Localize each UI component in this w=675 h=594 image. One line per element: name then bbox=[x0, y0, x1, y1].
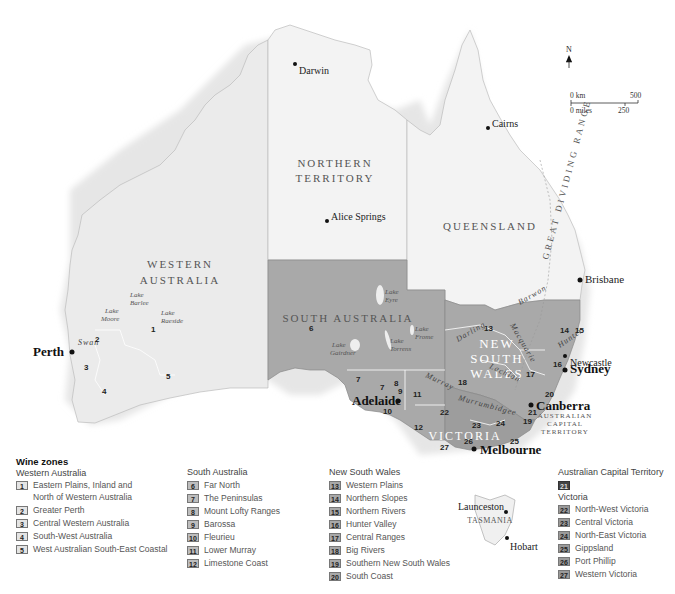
legend-item: 22North-West Victoria bbox=[558, 504, 675, 516]
legend-item: 19Southern New South Wales bbox=[329, 558, 479, 570]
state-label-act-2: CAPITAL bbox=[547, 420, 583, 428]
legend-item: 21 bbox=[558, 480, 675, 490]
lake-raeside-label-2: Raeside bbox=[160, 317, 183, 325]
legend-item-label: Hunter Valley bbox=[346, 519, 396, 531]
lake-barlee-label: Lake bbox=[129, 291, 144, 299]
zone-27: 27 bbox=[440, 443, 449, 452]
legend-item: 23Central Victoria bbox=[558, 517, 675, 529]
city-newcastle: Newcastle bbox=[570, 357, 612, 368]
legend-item-label: Limestone Coast bbox=[204, 558, 268, 570]
lake-torrens-label-2: Torrens bbox=[390, 345, 412, 353]
state-label-act-3: TERRITORY bbox=[541, 428, 589, 436]
legend-item: 17Central Ranges bbox=[329, 532, 479, 544]
legend-item: 10Fleurieu bbox=[187, 532, 327, 544]
city-perth: Perth bbox=[33, 344, 65, 359]
zone-badge: 21 bbox=[558, 481, 570, 490]
zone-20: 20 bbox=[545, 390, 554, 399]
lake-eyre-label-2: Eyre bbox=[384, 296, 398, 304]
legend-item-label: Central Ranges bbox=[346, 532, 405, 544]
legend-item: 14Northern Slopes bbox=[329, 493, 479, 505]
legend-item: 20South Coast bbox=[329, 571, 479, 583]
zone-badge: 7 bbox=[187, 494, 199, 503]
state-label-nt-1: NORTHERN bbox=[297, 157, 372, 169]
zone-11: 11 bbox=[413, 390, 422, 399]
zone-badge: 26 bbox=[558, 557, 570, 566]
lake-gairdner-label: Lake bbox=[331, 341, 346, 349]
zone-14: 14 bbox=[560, 326, 569, 335]
zone-badge: 12 bbox=[187, 559, 199, 568]
zone-badge: 2 bbox=[16, 506, 28, 515]
state-label-sa: SOUTH AUSTRALIA bbox=[282, 312, 413, 324]
legend-item-label: Greater Perth bbox=[33, 505, 85, 517]
zone-badge: 8 bbox=[187, 507, 199, 516]
zone-7b: 7 bbox=[380, 383, 385, 392]
zone-10: 10 bbox=[383, 407, 392, 416]
legend-item: 24North-East Victoria bbox=[558, 530, 675, 542]
lake-moore-label: Lake bbox=[104, 307, 119, 315]
legend-item-label: Southern New South Wales bbox=[346, 558, 450, 570]
zone-badge: 19 bbox=[329, 559, 341, 568]
zone-badge: 3 bbox=[16, 519, 28, 528]
zone-26: 26 bbox=[464, 437, 473, 446]
zone-badge: 1 bbox=[16, 481, 28, 490]
zone-badge: 20 bbox=[329, 572, 341, 581]
lake-eyre-label: Lake bbox=[384, 288, 399, 296]
legend-item: 1 Eastern Plains, Inland andNorth of Wes… bbox=[16, 480, 191, 503]
legend-item-label: Northern Slopes bbox=[346, 493, 407, 505]
legend-south-australia: South Australia 6Far North 7The Peninsul… bbox=[187, 467, 327, 571]
legend-item: 4 South-West Australia bbox=[16, 531, 191, 543]
legend-item-label: Central Western Australia bbox=[33, 518, 129, 530]
zone-18: 18 bbox=[458, 378, 467, 387]
legend-group-heading: Western Australia bbox=[16, 468, 191, 480]
legend-new-south-wales: New South Wales 13Western Plains 14North… bbox=[329, 467, 479, 584]
legend-item-label: Gippsland bbox=[575, 543, 613, 555]
city-cairns: Cairns bbox=[492, 118, 518, 129]
zone-1: 1 bbox=[151, 325, 156, 334]
lake-barlee-label-2: Barlee bbox=[130, 299, 149, 307]
lake-torrens-label: Lake bbox=[389, 337, 404, 345]
legend-item-label: Northern Rivers bbox=[346, 506, 406, 518]
state-label-wa-1: WESTERN bbox=[147, 258, 213, 270]
zone-badge: 18 bbox=[329, 546, 341, 555]
legend-item-label: Central Victoria bbox=[575, 517, 633, 529]
legend-label-line1: Eastern Plains, Inland and bbox=[33, 480, 132, 490]
legend-item: 5 West Australian South-East Coastal bbox=[16, 544, 191, 556]
legend-label-line2: North of Western Australia bbox=[33, 492, 132, 502]
zone-badge: 24 bbox=[558, 531, 570, 540]
legend-item: 27Western Victoria bbox=[558, 569, 675, 581]
zone-badge: 14 bbox=[329, 494, 341, 503]
legend-item: 6Far North bbox=[187, 480, 327, 492]
zone-badge: 17 bbox=[329, 533, 341, 542]
legend-item: 11Lower Murray bbox=[187, 545, 327, 557]
scale-km-start: 0 km bbox=[570, 91, 585, 100]
state-label-qld: QUEENSLAND bbox=[443, 220, 537, 232]
legend-item-label: Barossa bbox=[204, 519, 235, 531]
compass-label: N bbox=[566, 45, 572, 54]
legend-item-label: Big Rivers bbox=[346, 545, 385, 557]
zone-15: 15 bbox=[575, 326, 584, 335]
zone-badge: 15 bbox=[329, 507, 341, 516]
legend-item: 9Barossa bbox=[187, 519, 327, 531]
legend-item-label: North-East Victoria bbox=[575, 530, 646, 542]
scale-bar: 0 km 500 0 miles 250 bbox=[570, 91, 642, 115]
legend-item: 3 Central Western Australia bbox=[16, 518, 191, 530]
lake-gairdner-label-2: Gairdner bbox=[330, 349, 356, 357]
legend-item-label: South-West Australia bbox=[33, 531, 112, 543]
legend-item: 7The Peninsulas bbox=[187, 493, 327, 505]
legend-item-label: North-West Victoria bbox=[575, 504, 648, 516]
scale-miles-start: 0 miles bbox=[570, 106, 592, 115]
scale-miles-mid: 250 bbox=[618, 106, 630, 115]
legend-item-label: South Coast bbox=[346, 571, 393, 583]
legend-item: 16Hunter Valley bbox=[329, 519, 479, 531]
zone-6: 6 bbox=[309, 324, 314, 333]
legend-item: 25Gippsland bbox=[558, 543, 675, 555]
state-label-wa-2: AUSTRALIA bbox=[140, 274, 220, 286]
legend-item: 15Northern Rivers bbox=[329, 506, 479, 518]
zone-badge: 10 bbox=[187, 533, 199, 542]
north-arrow-icon: N bbox=[566, 45, 572, 68]
zone-2: 2 bbox=[95, 335, 100, 344]
zone-badge: 6 bbox=[187, 481, 199, 490]
zone-5: 5 bbox=[166, 372, 171, 381]
scale-km-end: 500 bbox=[630, 91, 642, 100]
zone-badge: 4 bbox=[16, 532, 28, 541]
